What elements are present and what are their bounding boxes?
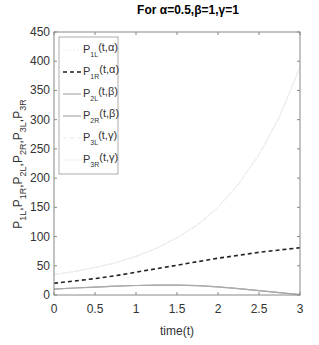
x-tick-label: 0.5	[87, 302, 104, 316]
y-tick-label: 450	[30, 25, 50, 39]
y-tick-label: 50	[37, 259, 51, 273]
chart-legend: P1L(t,α)P1R(t,α)P2L(t,β)P2R(t,β)P3L(t,γ)…	[59, 37, 119, 174]
x-tick-label: 0	[51, 302, 58, 316]
y-axis-label: P1L,P1R,P2L,P2R,P3L,P3R	[11, 99, 28, 229]
y-axis-label-text: P1L,P1R,P2L,P2R,P3L,P3R	[11, 99, 28, 229]
x-tick-label: 2.5	[251, 302, 268, 316]
x-tick-label: 2	[215, 302, 222, 316]
y-tick-label: 350	[30, 83, 50, 97]
x-tick-label: 1.5	[169, 302, 186, 316]
y-tick-label: 0	[43, 288, 50, 302]
y-tick-label: 100	[30, 230, 50, 244]
x-axis-label: time(t)	[160, 324, 194, 338]
y-tick-label: 150	[30, 200, 50, 214]
y-tick-label: 300	[30, 113, 50, 127]
x-tick-label: 3	[297, 302, 304, 316]
chart-title: For α=0.5,β=1,γ=1	[137, 3, 239, 17]
series-line-1r	[54, 248, 300, 284]
y-tick-label: 200	[30, 171, 50, 185]
x-tick-label: 1	[133, 302, 140, 316]
line-chart: For α=0.5,β=1,γ=1 00.511.522.53 05010015…	[0, 0, 319, 345]
y-tick-label: 400	[30, 54, 50, 68]
y-tick-label: 250	[30, 142, 50, 156]
